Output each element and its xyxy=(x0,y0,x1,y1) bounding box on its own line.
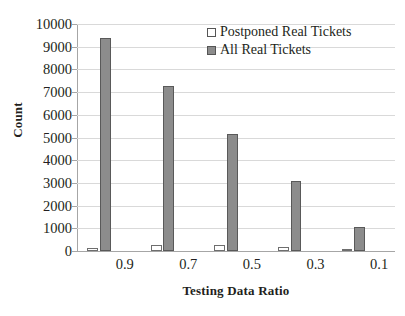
legend-item: All Real Tickets xyxy=(207,43,351,58)
bar xyxy=(163,86,174,251)
hollow-square-swatch xyxy=(207,28,216,37)
bar xyxy=(214,245,225,251)
bar xyxy=(87,248,98,251)
y-axis-tick-label: 9000 xyxy=(24,39,72,54)
y-axis-tick-label: 2000 xyxy=(24,198,72,213)
legend-item-label: All Real Tickets xyxy=(220,43,311,58)
y-axis-tick-mark xyxy=(72,206,77,207)
y-axis-tick-mark xyxy=(72,228,77,229)
y-axis-tick-label: 0 xyxy=(24,244,72,259)
bar xyxy=(342,249,353,251)
bar xyxy=(100,38,111,251)
bar-group xyxy=(268,24,332,251)
y-axis-tick-mark xyxy=(72,138,77,139)
y-axis-tick-mark xyxy=(72,251,77,252)
filled-square-swatch xyxy=(207,46,216,55)
bar xyxy=(354,227,365,251)
y-axis-tick-mark xyxy=(72,160,77,161)
bar-group xyxy=(141,24,205,251)
y-axis-tick-label: 5000 xyxy=(24,130,72,145)
y-axis-tick-label: 8000 xyxy=(24,62,72,77)
bar-group xyxy=(331,24,395,251)
y-axis-tick-label: 6000 xyxy=(24,108,72,123)
y-axis-tick-labels: 1000090008000700060005000400030002000100… xyxy=(24,0,72,316)
x-axis-title: Testing Data Ratio xyxy=(77,283,395,299)
legend-item-label: Postponed Real Tickets xyxy=(220,25,351,40)
y-axis-tick-mark xyxy=(72,24,77,25)
x-axis-tick-label: 0.5 xyxy=(204,256,268,273)
x-axis-tick-label: 0.7 xyxy=(141,256,205,273)
y-axis-tick-mark xyxy=(72,183,77,184)
y-axis-tick-mark xyxy=(72,69,77,70)
y-axis-tick-label: 1000 xyxy=(24,221,72,236)
bar xyxy=(291,181,302,251)
y-axis-tick-label: 10000 xyxy=(24,17,72,32)
y-axis-tick-mark xyxy=(72,115,77,116)
legend-item: Postponed Real Tickets xyxy=(207,25,351,40)
gridline xyxy=(77,251,395,252)
y-axis-tick-mark xyxy=(72,92,77,93)
bar-group xyxy=(204,24,268,251)
y-axis-tick-label: 3000 xyxy=(24,176,72,191)
bar-group xyxy=(77,24,141,251)
bar-groups xyxy=(77,24,395,251)
bar xyxy=(278,247,289,251)
bar xyxy=(151,245,162,251)
y-axis-tick-mark xyxy=(72,47,77,48)
bar-chart-figure: Count 1000090008000700060005000400030002… xyxy=(0,0,405,316)
x-axis-tick-label: 0.1 xyxy=(331,256,395,273)
y-axis-tick-label: 7000 xyxy=(24,85,72,100)
x-axis-tick-label: 0.9 xyxy=(77,256,141,273)
chart-legend: Postponed Real TicketsAll Real Tickets xyxy=(207,25,351,57)
x-axis-tick-label: 0.3 xyxy=(268,256,332,273)
bar xyxy=(227,134,238,251)
x-axis-tick-labels: 0.90.70.50.30.1 xyxy=(77,256,395,273)
plot-area xyxy=(77,24,395,251)
y-axis-tick-label: 4000 xyxy=(24,153,72,168)
